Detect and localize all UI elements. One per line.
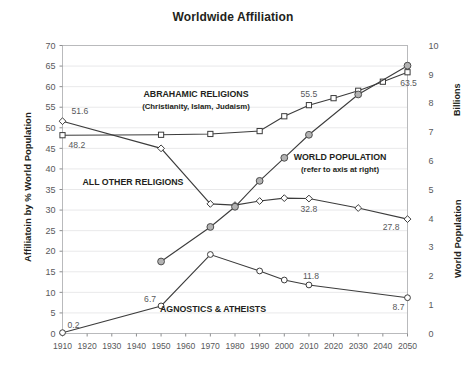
data-point-marker <box>60 330 66 336</box>
label-abrahamic-religions-sub: (Christianity, Islam, Judaism) <box>142 102 250 111</box>
series-label-world-population: WORLD POPULATION (refer to axis at right… <box>294 152 387 174</box>
x-tick-label: 1930 <box>102 341 121 351</box>
chart-root: Worldwide Affiliation Affiliatoin by % W… <box>0 0 466 375</box>
y-left-tick-label: 5 <box>50 308 55 318</box>
data-point-marker <box>281 277 287 283</box>
y-right-tick-label: 9 <box>429 70 434 80</box>
x-tick-label: 2020 <box>324 341 343 351</box>
y-left-tick-label: 50 <box>45 123 55 133</box>
x-tick-label: 1960 <box>176 341 195 351</box>
y-left-tick-label: 30 <box>45 205 55 215</box>
y-right-tick-label: 8 <box>429 98 434 108</box>
data-point-marker <box>60 133 65 138</box>
data-point-marker <box>158 258 165 265</box>
data-point-marker <box>404 62 411 69</box>
x-tick-label: 2010 <box>299 341 318 351</box>
data-point-marker <box>405 70 410 75</box>
x-tick-label: 1970 <box>201 341 220 351</box>
y-right-tick-label: 2 <box>429 271 434 281</box>
label-all-other-religions: ALL OTHER RELIGIONS <box>82 177 183 187</box>
y-left-tick-label: 45 <box>45 144 55 154</box>
data-point-value-label: 0.2 <box>68 320 80 330</box>
y-left-tick-label: 20 <box>45 246 55 256</box>
data-point-marker <box>306 282 312 288</box>
series-label-agnostics: AGNOSTICS & ATHEISTS <box>160 304 266 314</box>
data-point-marker <box>404 216 411 223</box>
y-right-tick-label: 10 <box>429 41 439 51</box>
y-left-tick-label: 55 <box>45 102 55 112</box>
data-point-marker <box>331 96 336 101</box>
data-point-value-label: 11.8 <box>303 271 319 281</box>
x-tick-label: 1920 <box>78 341 97 351</box>
data-point-value-label: 8.7 <box>393 302 405 312</box>
y-right-tick-label: 1 <box>429 300 434 310</box>
x-tick-label: 2000 <box>275 341 294 351</box>
data-point-marker <box>281 154 288 161</box>
data-point-marker <box>158 132 163 137</box>
data-point-marker <box>207 252 213 258</box>
data-point-value-label: 63.5 <box>400 78 417 88</box>
y-left-tick-label: 60 <box>45 82 55 92</box>
y-right-tick-label: 0 <box>429 329 434 339</box>
label-world-population-sub: (refer to axis at right) <box>301 165 379 174</box>
label-agnostics-atheists: AGNOSTICS & ATHEISTS <box>160 304 266 314</box>
y-left-tick-label: 25 <box>45 226 55 236</box>
y-left-tick-label: 40 <box>45 164 55 174</box>
x-axis-ticks: 1910192019301940195019601970198019902000… <box>53 334 417 351</box>
data-point-marker <box>207 224 214 231</box>
data-point-value-label: 27.8 <box>383 222 400 232</box>
data-point-marker <box>59 118 66 125</box>
chart-plot-area: 0510152025303540455055606570 01234567891… <box>0 0 466 375</box>
data-point-marker <box>232 203 239 210</box>
y-left-tick-label: 10 <box>45 288 55 298</box>
data-point-marker <box>256 198 263 205</box>
data-point-value-label: 32.8 <box>301 204 318 214</box>
x-tick-label: 2040 <box>373 341 392 351</box>
data-point-value-label: 6.7 <box>144 294 156 304</box>
series-label-abrahamic: ABRAHAMIC RELIGIONS (Christianity, Islam… <box>142 89 250 111</box>
y-left-tick-label: 70 <box>45 41 55 51</box>
x-tick-label: 2030 <box>349 341 368 351</box>
data-point-marker <box>355 91 362 98</box>
y-right-tick-label: 5 <box>429 185 434 195</box>
y-left-tick-label: 35 <box>45 185 55 195</box>
x-tick-label: 1980 <box>225 341 244 351</box>
y-right-tick-label: 3 <box>429 242 434 252</box>
data-point-value-label: 51.6 <box>72 106 89 116</box>
x-tick-label: 1990 <box>250 341 269 351</box>
data-point-marker <box>306 103 311 108</box>
series-label-all-other: ALL OTHER RELIGIONS <box>82 177 183 187</box>
y-left-tick-label: 0 <box>50 329 55 339</box>
data-point-marker <box>306 195 313 202</box>
label-abrahamic-religions: ABRAHAMIC RELIGIONS <box>143 89 248 99</box>
data-point-marker <box>257 128 262 133</box>
y-right-tick-label: 4 <box>429 214 434 224</box>
x-tick-label: 1950 <box>152 341 171 351</box>
data-point-marker <box>306 131 313 138</box>
y-left-tick-label: 65 <box>45 61 55 71</box>
data-point-marker <box>282 114 287 119</box>
series-line-agnostics-atheists <box>63 255 408 333</box>
data-point-marker <box>208 131 213 136</box>
x-tick-label: 2050 <box>398 341 417 351</box>
label-world-population: WORLD POPULATION <box>294 152 387 162</box>
y-right-tick-label: 7 <box>429 127 434 137</box>
x-tick-label: 1910 <box>53 341 72 351</box>
y-axis-right-ticks: 012345678910 <box>429 41 439 339</box>
y-left-tick-label: 15 <box>45 267 55 277</box>
data-point-marker <box>281 195 288 202</box>
x-tick-label: 1940 <box>127 341 146 351</box>
data-point-marker <box>257 268 263 274</box>
y-axis-left-ticks: 0510152025303540455055606570 <box>45 41 62 339</box>
data-point-value-label: 55.5 <box>301 89 318 99</box>
data-point-marker <box>405 295 411 301</box>
y-right-tick-label: 6 <box>429 156 434 166</box>
data-point-value-label: 48.2 <box>69 140 86 150</box>
data-point-marker <box>256 177 263 184</box>
